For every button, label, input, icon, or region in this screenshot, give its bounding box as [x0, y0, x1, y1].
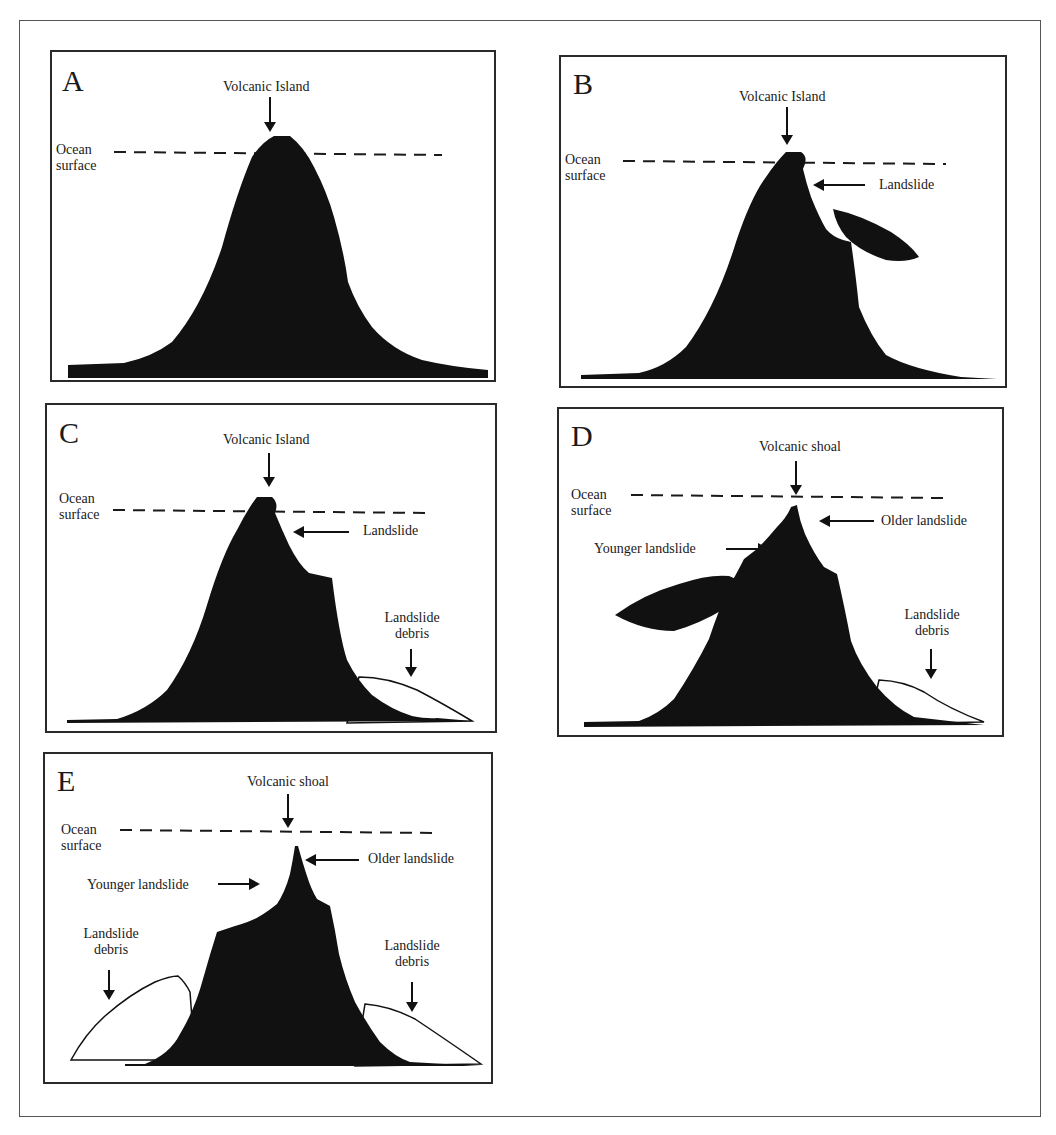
arrow-down-icon: [406, 1002, 418, 1012]
panel-e-drawing: [45, 754, 495, 1086]
volcano-label: Volcanic Island: [223, 432, 309, 448]
arrow-down-icon: [405, 667, 417, 677]
ocean-surface-label: Ocean surface: [59, 491, 99, 523]
panel-letter: A: [62, 66, 84, 96]
panel-letter: D: [571, 421, 593, 451]
arrow-left-icon: [819, 515, 830, 527]
panel-a: A Volcanic Island Ocean surface: [50, 50, 496, 382]
landslide-debris-left-label: Landslide debris: [71, 926, 151, 958]
panel-c: C Volcanic Island Ocean surface Landslid…: [45, 403, 497, 733]
landslide-debris-label: Landslide debris: [892, 607, 972, 639]
landslide-debris-right-label: Landslide debris: [372, 938, 452, 970]
ocean-surface-label: Ocean surface: [565, 152, 605, 184]
ocean-surface-line: [120, 830, 437, 833]
arrow-down-icon: [103, 990, 115, 1000]
arrow-left-icon: [293, 526, 304, 538]
panel-d: D Volcanic shoal Ocean surface Older lan…: [557, 407, 1004, 737]
volcano-label: Volcanic shoal: [247, 774, 329, 790]
older-landslide-label: Older landslide: [881, 513, 967, 529]
arrow-down-icon: [925, 669, 937, 679]
arrow-left-icon: [305, 854, 316, 866]
panel-letter: C: [59, 418, 79, 448]
younger-landslide-label: Younger landslide: [594, 541, 696, 557]
arrow-down-icon: [264, 122, 276, 132]
ocean-surface-label: Ocean surface: [56, 142, 96, 174]
landslide-debris-label: Landslide debris: [372, 610, 452, 642]
arrow-down-icon: [781, 135, 793, 145]
volcano-label: Volcanic Island: [739, 89, 825, 105]
arrow-left-icon: [813, 179, 824, 191]
landslide-label: Landslide: [879, 177, 934, 193]
volcano-shape: [581, 152, 997, 379]
landslide-label: Landslide: [363, 523, 418, 539]
ocean-surface-label: Ocean surface: [61, 822, 101, 854]
panel-letter: E: [57, 766, 75, 796]
volcano-label: Volcanic shoal: [759, 439, 841, 455]
volcano-label: Volcanic Island: [223, 79, 309, 95]
panel-b: B Volcanic Island Ocean surface Landslid…: [559, 55, 1007, 388]
ocean-surface-label: Ocean surface: [571, 487, 611, 519]
older-landslide-label: Older landslide: [368, 851, 454, 867]
arrow-down-icon: [263, 477, 275, 487]
younger-landslide-label: Younger landslide: [87, 877, 189, 893]
panel-a-drawing: [52, 52, 498, 384]
panel-b-drawing: [561, 57, 1009, 390]
panel-e: E Volcanic shoal Ocean surface Older lan…: [43, 752, 493, 1084]
panel-letter: B: [573, 69, 593, 99]
panel-d-drawing: [559, 409, 1006, 739]
ocean-surface-line: [631, 495, 944, 498]
volcano-shape: [68, 136, 488, 378]
arrow-right-icon: [249, 878, 260, 890]
panel-c-drawing: [47, 405, 499, 735]
arrow-down-icon: [282, 818, 294, 828]
arrow-down-icon: [790, 485, 802, 495]
